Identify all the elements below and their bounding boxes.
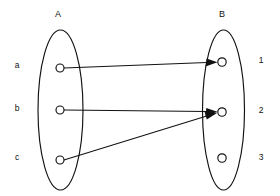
node-c[interactable] <box>56 156 64 164</box>
arrowhead-a-to-1 <box>206 59 218 67</box>
mapping-line-a-to-1 <box>64 63 207 69</box>
label-element-b: b <box>15 103 20 113</box>
set-a-title: A <box>55 9 61 19</box>
label-element-a: a <box>15 60 20 70</box>
diagram-canvas: A B a b c 1 2 3 <box>0 0 280 196</box>
arrowhead-c-to-2 <box>205 112 218 120</box>
set-b-title: B <box>219 9 225 19</box>
node-2[interactable] <box>218 108 226 116</box>
node-a[interactable] <box>56 64 64 72</box>
label-element-2: 2 <box>259 105 264 115</box>
set-mapping-diagram: A B a b c 1 2 3 <box>0 0 280 196</box>
mapping-line-c-to-2 <box>64 116 208 160</box>
label-element-c: c <box>15 152 20 162</box>
label-element-3: 3 <box>259 152 264 162</box>
node-b[interactable] <box>56 106 64 114</box>
node-1[interactable] <box>218 58 226 66</box>
mapping-line-b-to-2 <box>64 110 207 112</box>
node-3[interactable] <box>218 154 226 162</box>
label-element-1: 1 <box>259 55 264 65</box>
